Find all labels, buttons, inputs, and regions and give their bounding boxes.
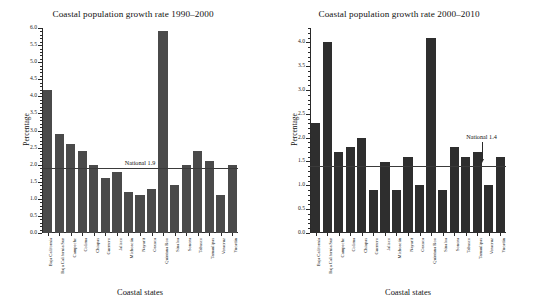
- y-axis-minor-tick: [308, 133, 311, 134]
- x-axis-tick-label: Jalisco: [119, 238, 124, 251]
- x-axis-tick-label: Baja California Sur: [61, 238, 66, 274]
- x-axis-tick-label: Quintana Roo: [433, 238, 438, 264]
- x-axis-tick: [500, 233, 501, 236]
- y-axis-minor-tick: [40, 137, 43, 138]
- y-axis-minor-tick: [40, 127, 43, 128]
- x-axis-tick: [94, 233, 95, 236]
- y-axis-minor-tick: [40, 117, 43, 118]
- y-axis-tick: [306, 138, 310, 139]
- x-axis-tick-label: Veracruz: [490, 238, 495, 254]
- y-axis-tick-label: 4.0: [30, 94, 37, 100]
- y-axis-minor-tick: [40, 230, 43, 231]
- y-axis-minor-tick: [40, 161, 43, 162]
- y-axis-minor-tick: [40, 192, 43, 193]
- y-axis-tick-label: 2.0: [298, 135, 305, 141]
- x-axis-tick: [221, 233, 222, 236]
- y-axis-minor-tick: [308, 61, 311, 62]
- x-axis-tick-label: Baja California: [49, 238, 54, 266]
- x-axis-tick-label: Tabasco: [199, 238, 204, 253]
- y-axis-tick: [306, 66, 310, 67]
- national-reference-label: National 1.4: [466, 133, 497, 140]
- x-axis-tick-label: Oaxaca: [421, 238, 426, 252]
- x-axis-tick: [350, 233, 351, 236]
- bar: [78, 151, 87, 233]
- x-axis-tick: [198, 233, 199, 236]
- x-axis-tick-label: Yucatán: [234, 238, 239, 253]
- y-axis-minor-tick: [40, 93, 43, 94]
- y-axis-minor-tick: [40, 189, 43, 190]
- y-axis-minor-tick: [308, 195, 311, 196]
- x-axis-tick-label: Guerrero: [107, 238, 112, 255]
- y-axis-tick-label: 3.0: [298, 87, 305, 93]
- chart-title: Coastal population growth rate 1990–2000: [0, 9, 266, 19]
- plot-area: 0.00.51.01.52.02.53.03.54.04.55.05.56.0B…: [42, 28, 238, 233]
- y-axis-minor-tick: [40, 154, 43, 155]
- y-axis-minor-tick: [308, 200, 311, 201]
- bar: [380, 162, 389, 234]
- x-axis-caption: Coastal states: [22, 288, 258, 297]
- y-axis-tick-label: 4.5: [30, 76, 37, 82]
- y-axis-minor-tick: [308, 95, 311, 96]
- y-axis-minor-tick: [308, 38, 311, 39]
- y-axis-tick: [306, 114, 310, 115]
- y-axis-minor-tick: [308, 80, 311, 81]
- y-axis-minor-tick: [308, 223, 311, 224]
- x-axis-tick: [105, 233, 106, 236]
- x-axis-tick: [385, 233, 386, 236]
- y-axis-tick-label: 2.0: [30, 162, 37, 168]
- x-axis-tick: [339, 233, 340, 236]
- x-axis-tick-label: Tabasco: [467, 238, 472, 253]
- y-axis-tick: [38, 45, 42, 46]
- x-axis-tick: [209, 233, 210, 236]
- x-axis-tick: [477, 233, 478, 236]
- x-axis-tick: [140, 233, 141, 236]
- y-axis-tick-label: 5.5: [30, 42, 37, 48]
- y-axis-minor-tick: [40, 195, 43, 196]
- y-axis-tick: [306, 233, 310, 234]
- bar: [403, 157, 412, 233]
- y-axis-minor-tick: [308, 76, 311, 77]
- y-axis-minor-tick: [308, 171, 311, 172]
- bar: [135, 195, 144, 233]
- bar: [158, 31, 167, 233]
- bar: [216, 195, 225, 233]
- bar: [112, 172, 121, 234]
- y-axis-tick: [38, 182, 42, 183]
- y-axis-minor-tick: [308, 52, 311, 53]
- y-axis-tick-label: 2.5: [30, 145, 37, 151]
- y-axis-tick: [38, 113, 42, 114]
- bar: [461, 157, 470, 233]
- annotation-arrow-stem: [482, 142, 483, 160]
- chart-panel-2000-2010: Coastal population growth rate 2000–2010…: [266, 0, 532, 308]
- x-axis-tick: [71, 233, 72, 236]
- x-axis-tick-label: Sonora: [188, 238, 193, 251]
- y-axis-minor-tick: [40, 59, 43, 60]
- bar: [101, 178, 110, 233]
- y-axis-minor-tick: [40, 175, 43, 176]
- y-axis-minor-tick: [40, 103, 43, 104]
- bar: [311, 123, 320, 233]
- y-axis-tick: [38, 233, 42, 234]
- x-axis-tick: [186, 233, 187, 236]
- y-axis-minor-tick: [40, 83, 43, 84]
- y-axis-tick-label: 0.5: [298, 206, 305, 212]
- national-reference-label: National 1.9: [125, 159, 156, 166]
- y-axis-minor-tick: [40, 172, 43, 173]
- y-axis-tick: [306, 90, 310, 91]
- bar: [43, 90, 52, 234]
- x-axis-tick-label: Sonora: [456, 238, 461, 251]
- y-axis-minor-tick: [308, 123, 311, 124]
- bar: [438, 190, 447, 233]
- y-axis-minor-tick: [308, 28, 311, 29]
- y-axis-minor-tick: [40, 49, 43, 50]
- x-axis-tick: [175, 233, 176, 236]
- y-axis-minor-tick: [308, 100, 311, 101]
- y-axis-minor-tick: [308, 128, 311, 129]
- x-axis-tick: [489, 233, 490, 236]
- x-axis-tick: [232, 233, 233, 236]
- x-axis-tick-label: Campeche: [73, 238, 78, 257]
- y-axis-minor-tick: [40, 86, 43, 87]
- bar: [415, 185, 424, 233]
- x-axis-tick-label: Sinaloa: [444, 238, 449, 252]
- y-axis-minor-tick: [308, 228, 311, 229]
